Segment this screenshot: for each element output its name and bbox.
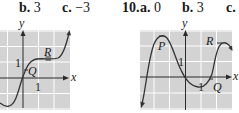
graph2-point-R-label: R: [206, 34, 213, 49]
graph2-x-tick-label: 1: [198, 80, 204, 95]
graph1-point-Q-label: Q: [28, 64, 37, 79]
graph1-x-tick-label: 1: [35, 80, 41, 95]
graph1-y-tick-label: 1: [15, 56, 21, 71]
graph2-point-P-label: P: [158, 39, 165, 54]
graph1-point-R-label: R: [44, 45, 51, 60]
graph1-x-axis-label: x: [71, 70, 76, 85]
graph1-y-axis-label: y: [19, 16, 24, 31]
graph2-x-axis-label: x: [233, 69, 238, 84]
graph2-y-tick-label: 1: [178, 55, 184, 70]
graph1: [0, 0, 239, 113]
graph2-point-Q-label: Q: [213, 80, 222, 95]
graph2-y-axis-label: y: [182, 16, 187, 31]
